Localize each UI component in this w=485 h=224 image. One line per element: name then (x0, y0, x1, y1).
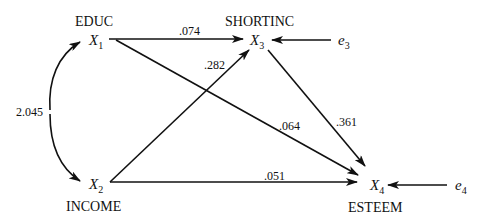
node-e3: e3 (338, 32, 350, 51)
coef-x2-x3: .282 (204, 58, 225, 72)
edge-covariance-x1-x2-lower (50, 114, 80, 181)
node-name-income: INCOME (66, 199, 121, 214)
coef-x1-x4: .064 (279, 119, 300, 133)
coef-x1-x3: .074 (179, 24, 200, 38)
node-x2: X2 (88, 176, 103, 195)
node-x1: X1 (88, 32, 103, 51)
edge-x1-x4 (116, 40, 358, 175)
node-x3: X3 (249, 32, 264, 51)
coef-x2-x4: .051 (264, 169, 285, 183)
node-e4: e4 (455, 177, 467, 196)
coef-covariance-x1-x2: 2.045 (16, 105, 43, 119)
coef-x3-x4: .361 (336, 115, 357, 129)
node-x4: X4 (369, 177, 384, 196)
edge-covariance-x1-x2 (50, 42, 80, 110)
node-name-esteem: ESTEEM (348, 200, 403, 215)
path-diagram: EDUC X1 SHORTINC X3 e3 X2 INCOME X4 ESTE… (0, 0, 485, 224)
node-name-educ: EDUC (75, 14, 113, 29)
edge-x2-x3 (110, 50, 249, 182)
node-name-shortinc: SHORTINC (225, 14, 294, 29)
edge-x3-x4 (268, 50, 365, 166)
